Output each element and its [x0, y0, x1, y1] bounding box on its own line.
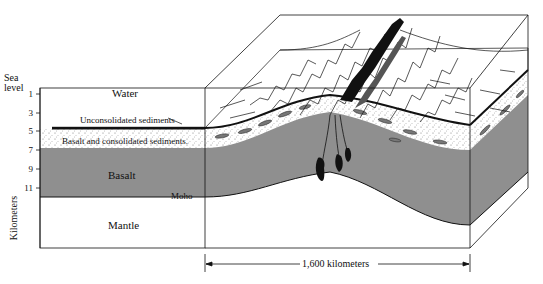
- rift-valley: [340, 18, 406, 108]
- moho-label: Moho: [171, 192, 193, 201]
- unconsolidated-label: Unconsolidated sediments: [80, 116, 175, 125]
- consolidated-label: Basalt and consolidated sediments.: [62, 137, 188, 146]
- axis-tick-5: 5: [19, 127, 33, 136]
- scale-label: 1,600 kilometers: [302, 259, 369, 269]
- water-label: Water: [112, 88, 138, 99]
- axis-tick-3: 3: [19, 109, 33, 118]
- axis-tick-11: 11: [19, 184, 33, 193]
- axis-tick-7: 7: [19, 146, 33, 155]
- axis-tick-1: 1: [19, 90, 33, 99]
- axis-unit-label: Kilometers: [9, 196, 19, 240]
- right-side-panel: [470, 70, 528, 225]
- basalt-label: Basalt: [108, 170, 136, 181]
- axis-tick-9: 9: [19, 165, 33, 174]
- depth-axis: [36, 88, 40, 248]
- mantle-label: Mantle: [108, 220, 139, 231]
